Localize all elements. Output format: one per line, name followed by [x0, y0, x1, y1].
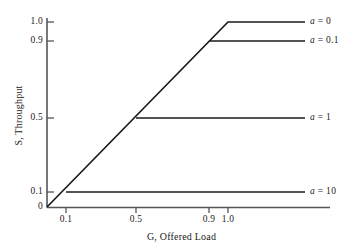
series-label-a-0: a = 0 [310, 17, 331, 27]
chart-plot-area [0, 0, 363, 251]
y-tick-label-0.9: 0.9 [10, 36, 43, 46]
series-label-a-0-value: = 0 [318, 16, 331, 26]
x-tick-label-0.5: 0.5 [120, 215, 152, 225]
series-label-a-10: a = 10 [310, 187, 336, 197]
series-label-a-1: a = 1 [310, 113, 331, 123]
series-label-a-10-value: = 10 [318, 186, 336, 196]
throughput-chart-figure: 1.0 0.9 0.5 0.1 0 0.1 0.5 0.9 1.0 a = 0 … [0, 0, 363, 251]
series-label-a-10-var: a [310, 186, 315, 196]
x-tick-label-0.1: 0.1 [50, 215, 82, 225]
x-tick-label-1.0: 1.0 [212, 215, 244, 225]
series-label-a-0.1: a = 0.1 [310, 36, 339, 46]
series-label-a-0.1-value: = 0.1 [318, 35, 339, 45]
series-line-a-0 [47, 22, 305, 207]
series-label-a-1-var: a [310, 112, 315, 122]
series-label-a-0-var: a [310, 16, 315, 26]
y-tick-label-0: 0 [10, 202, 43, 212]
y-tick-label-1.0: 1.0 [10, 17, 43, 27]
x-axis-title: G, Offered Load [0, 231, 363, 242]
y-axis-title: S, Throughput [13, 61, 24, 171]
y-tick-label-0.1: 0.1 [10, 187, 43, 197]
series-label-a-1-value: = 1 [318, 112, 331, 122]
series-label-a-0.1-var: a [310, 35, 315, 45]
